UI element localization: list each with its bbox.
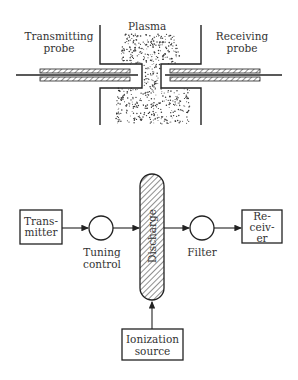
transmitter-label-line2: mitter [20, 227, 62, 238]
filter-label: Filter [186, 246, 218, 258]
transmitting-probe-label: Transmitting probe [24, 30, 94, 54]
tuning-control-label-line1: Tuning [80, 246, 124, 258]
receiving-probe-label-line1: Receiving [212, 30, 272, 42]
ionization-source-label-line1: Ionization [122, 333, 183, 345]
receiving-probe-label-line2: probe [212, 42, 272, 54]
filter-circle [190, 216, 214, 240]
receiving-probe-label: Receiving probe [212, 30, 272, 54]
receiving-probe [165, 69, 282, 81]
discharge-label: Discharge [146, 206, 158, 266]
transmitter-label: Trans- mitter [20, 216, 62, 238]
tuning-control-label: Tuning control [80, 246, 124, 270]
ionization-source-label: Ionization source [122, 333, 183, 357]
plasma-label: Plasma [128, 20, 166, 32]
diagram-canvas [0, 0, 298, 380]
ionization-source-label-line2: source [122, 345, 183, 357]
receiver-label-line3: er [242, 233, 282, 244]
tuning-control-circle [89, 216, 113, 240]
transmitting-probe-label-line2: probe [24, 42, 94, 54]
receiver-label: Re- ceiv- er [242, 211, 282, 244]
transmitting-probe [16, 69, 138, 81]
tuning-control-label-line2: control [80, 258, 124, 270]
transmitting-probe-label-line1: Transmitting [24, 30, 94, 42]
